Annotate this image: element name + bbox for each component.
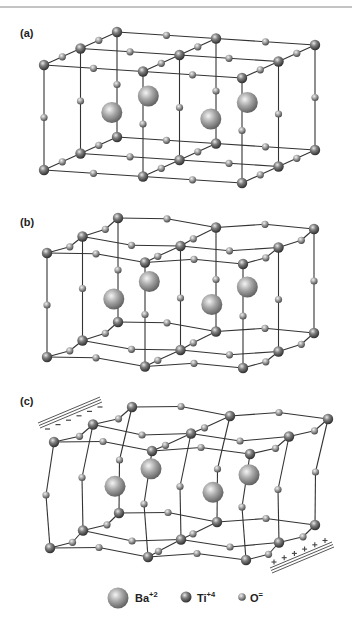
o-ion	[59, 158, 66, 165]
o-ion	[298, 237, 305, 244]
o-ion	[262, 515, 269, 522]
o-ion	[95, 544, 102, 551]
ti-o-bond	[50, 548, 99, 549]
o-ion	[312, 468, 319, 475]
ti-o-bond	[148, 554, 197, 558]
positive-charge-sign	[302, 547, 307, 552]
ti-ion	[273, 346, 283, 356]
ti-o-bond	[197, 554, 246, 561]
ti-o-bond	[143, 72, 193, 75]
ti-o-bond	[265, 224, 314, 229]
o-ion	[155, 548, 162, 555]
o-ion	[40, 114, 47, 121]
ti-o-bond	[132, 349, 181, 350]
ti-ion	[113, 317, 123, 327]
o-ion	[163, 137, 170, 144]
legend-ti-charge: +4	[207, 590, 216, 599]
o-ion	[190, 339, 197, 346]
ti-o-bond	[47, 357, 96, 358]
ba-ion	[239, 464, 260, 485]
ti-o-bond	[181, 246, 230, 251]
o-ion	[66, 243, 73, 250]
ti-ion	[245, 449, 255, 459]
ti-ion	[77, 335, 87, 345]
ti-ion	[77, 231, 87, 241]
o-ion	[257, 171, 264, 178]
ti-o-bond	[83, 531, 132, 542]
ti-o-bond	[46, 495, 50, 548]
o-ion	[189, 530, 196, 537]
ti-o-bond	[240, 437, 289, 442]
o-ion	[176, 483, 183, 490]
ti-o-bond	[315, 472, 316, 525]
o-ion	[154, 253, 161, 260]
ti-o-bond	[82, 478, 83, 531]
ti-o-bond	[194, 259, 243, 264]
ti-o-bond	[103, 442, 152, 452]
ti-o-bond	[230, 248, 279, 251]
ba-ion	[103, 289, 124, 310]
ti-ion	[309, 224, 319, 234]
ti-o-bond	[96, 358, 145, 367]
o-ion	[154, 357, 161, 364]
ti-o-bond	[167, 323, 216, 332]
ba-ion	[105, 476, 126, 497]
ti-o-bond	[279, 413, 328, 420]
ti-o-bond	[266, 147, 316, 150]
ti-o-bond	[132, 245, 181, 246]
ti-ion	[112, 27, 122, 37]
ti-ion	[175, 345, 185, 355]
o-ion	[293, 155, 300, 162]
ti-ion	[140, 361, 150, 371]
legend-item-ba: Ba+2	[108, 588, 158, 609]
ti-ion	[238, 259, 248, 269]
o-ion	[236, 437, 243, 444]
o-ion	[176, 104, 183, 111]
o-ion	[128, 346, 135, 353]
o-ion	[265, 551, 272, 558]
o-ion	[76, 433, 83, 440]
ti-o-bond	[99, 548, 148, 558]
o-ion	[164, 509, 171, 516]
ti-ion	[274, 537, 284, 547]
ti-o-bond	[181, 540, 230, 548]
o-ion	[298, 341, 305, 348]
ti-o-bond	[54, 442, 103, 443]
o-ion	[225, 160, 232, 167]
ti-ion	[176, 534, 186, 544]
legend-item-o: O=	[238, 590, 263, 604]
ti-o-bond	[265, 328, 314, 333]
positive-charge-sign	[292, 551, 297, 556]
panel-b: (b)	[20, 213, 319, 373]
ti-o-bond	[230, 352, 279, 355]
o-ion	[261, 325, 268, 332]
ti-ion	[237, 178, 247, 188]
o-ion	[262, 38, 269, 45]
ti-o-bond	[167, 219, 216, 228]
o-ion	[42, 491, 49, 498]
ti-o-bond	[180, 55, 230, 58]
ti-o-bond	[81, 154, 131, 157]
ti-o-bond	[93, 425, 142, 436]
ti-ion	[212, 517, 222, 527]
o-ion	[311, 94, 318, 101]
ti-o-bond	[167, 35, 217, 38]
o-ion	[163, 319, 170, 326]
ti-ion	[127, 402, 137, 412]
ti-ion	[211, 33, 221, 43]
barium-titanate-figure: (a) (b) (c) Ba+2 Ti+4	[0, 0, 352, 630]
o-ion	[262, 143, 269, 150]
o-ion	[90, 170, 97, 177]
ti-ion	[143, 552, 153, 562]
ti-ion	[75, 148, 85, 158]
o-ion	[275, 110, 282, 117]
ba-ion	[203, 482, 224, 503]
legend-ti-label: Ti	[197, 592, 207, 604]
o-ion	[272, 445, 279, 452]
ti-o-bond	[278, 490, 279, 543]
o-ion	[163, 215, 170, 222]
o-ion	[163, 32, 170, 39]
ti-o-bond	[230, 543, 279, 548]
o-ion	[126, 153, 133, 160]
svg-text:Ti+4: Ti+4	[197, 590, 216, 604]
